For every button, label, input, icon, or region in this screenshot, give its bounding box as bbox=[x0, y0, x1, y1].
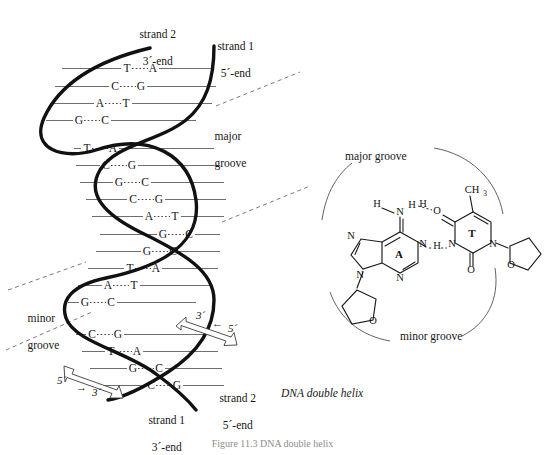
hbond-upper-h-label: H bbox=[408, 199, 416, 210]
figure-caption: Figure 11.3 DNA double helix bbox=[0, 438, 545, 449]
strand-2-top-line2: 3´-end bbox=[143, 55, 173, 67]
label-strand-2-bottom: strand 2 5´-end bbox=[196, 378, 268, 446]
adenine-sugar-oxygen-label: O bbox=[369, 315, 377, 326]
base-letter-left: G bbox=[159, 228, 167, 240]
major-groove-dash-lower bbox=[222, 186, 310, 222]
lower-arrow-start-label: 5´ bbox=[57, 374, 66, 388]
adenine-n7-label: N bbox=[347, 230, 355, 241]
base-letter-right: C bbox=[141, 176, 149, 188]
major-groove-arc-right bbox=[434, 148, 503, 214]
adenine-exocyclic-n-label: N bbox=[396, 206, 404, 217]
thymine-c5-c6-double-bond bbox=[474, 216, 488, 224]
hbond-lower-h-label: H bbox=[433, 240, 441, 251]
thymine-c4-oxygen-label: O bbox=[433, 205, 441, 216]
thymine-sugar-oxygen-label: O bbox=[507, 259, 515, 270]
label-major-groove-helix: major groove bbox=[203, 116, 246, 184]
label-strand-1-top: strand 1 5´-end bbox=[196, 26, 264, 94]
thymine-n1-label: N bbox=[489, 238, 497, 249]
minor-groove-helix-line1: minor bbox=[28, 312, 55, 324]
strand-2-top-line1: strand 2 bbox=[139, 28, 176, 40]
adenine-amine-h-left-bond bbox=[382, 208, 394, 213]
adenine-n9-label: N bbox=[356, 269, 364, 280]
base-letter-left: A bbox=[145, 210, 154, 222]
lower-arrow-mid-label: → bbox=[76, 381, 87, 395]
base-letter-right: T bbox=[171, 210, 178, 222]
base-letter-left: G bbox=[143, 245, 151, 257]
thymine-c2-oxygen-label: O bbox=[467, 264, 475, 275]
base-letter-right: T bbox=[122, 97, 129, 109]
base-letter-left: C bbox=[129, 193, 137, 205]
base-letter-left: G bbox=[129, 362, 137, 374]
thymine-n1-sugar-bond bbox=[496, 243, 508, 248]
upper-arrow-mid-label: ← bbox=[212, 317, 223, 331]
base-letter-right: T bbox=[130, 279, 137, 291]
strand-2-bottom-line1: strand 2 bbox=[219, 392, 256, 404]
base-letter-left: A bbox=[104, 279, 113, 291]
minor-groove-arc-right bbox=[462, 268, 496, 336]
lower-arrow-end-label: 3´ bbox=[92, 386, 101, 400]
adenine-base-letter: A bbox=[395, 248, 403, 260]
strand-1-top-line1: strand 1 bbox=[217, 40, 254, 52]
upper-arrow-end-label: 5´ bbox=[228, 322, 237, 336]
base-letter-left: G bbox=[75, 114, 83, 126]
major-groove-helix-line2: groove bbox=[215, 157, 247, 169]
major-groove-arc-left bbox=[322, 163, 352, 220]
base-letter-right: G bbox=[137, 80, 145, 92]
base-letter-right: G bbox=[114, 328, 122, 340]
basepair-chemical-structure: N N N N N A H H O bbox=[322, 148, 541, 341]
label-major-groove-structure: major groove bbox=[345, 150, 407, 164]
base-letter-left: A bbox=[96, 97, 105, 109]
base-letter-right: C bbox=[107, 296, 115, 308]
upper-arrow-start-label: 3´ bbox=[196, 309, 205, 323]
base-letter-right: G bbox=[155, 193, 163, 205]
thymine-base-letter: T bbox=[468, 227, 476, 239]
thymine-n3-label: N bbox=[448, 238, 456, 249]
minor-groove-helix-line2: groove bbox=[28, 339, 60, 351]
label-strand-2-top: strand 2 3´-end bbox=[116, 14, 188, 82]
base-letter-left: G bbox=[81, 296, 89, 308]
base-letter-right: G bbox=[128, 159, 136, 171]
base-letter-right: A bbox=[133, 345, 142, 357]
minor-groove-arc-left bbox=[330, 292, 390, 341]
structure-title: DNA double helix bbox=[281, 387, 363, 401]
helix-strand-2-backbone bbox=[41, 48, 197, 410]
minor-groove-dash-upper bbox=[8, 262, 86, 290]
label-minor-groove-structure: minor groove bbox=[400, 330, 462, 344]
strand-1-top-line2: 5´-end bbox=[221, 67, 251, 79]
adenine-n3-label: N bbox=[396, 272, 404, 283]
thymine-methyl-subscript: 3 bbox=[483, 189, 487, 198]
base-letter-left: G bbox=[115, 176, 123, 188]
base-letter-left: C bbox=[111, 80, 119, 92]
thymine-methyl-bond bbox=[470, 196, 473, 212]
base-letter-right: C bbox=[101, 114, 109, 126]
adenine-n1-label: N bbox=[419, 238, 427, 249]
label-minor-groove-helix: minor groove bbox=[16, 298, 59, 366]
major-groove-helix-line1: major bbox=[215, 130, 242, 142]
thymine-methyl-label: CH bbox=[465, 184, 480, 195]
strand-1-bottom-line1: strand 1 bbox=[148, 414, 185, 426]
adenine-amine-h-left-label: H bbox=[373, 198, 381, 209]
strand-2-bottom-line2: 5´-end bbox=[223, 419, 253, 431]
